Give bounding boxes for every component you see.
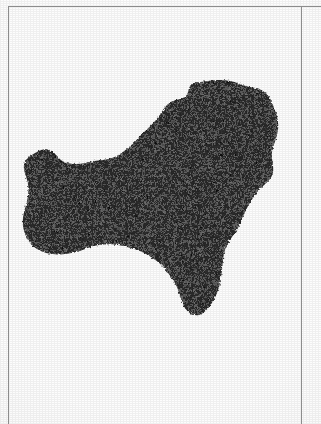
scanned-page	[0, 0, 321, 424]
frame-rule-right	[301, 6, 302, 424]
island-outline	[23, 80, 279, 315]
frame-rule-left	[8, 6, 9, 424]
frame-rule-top	[8, 6, 321, 7]
island-map-figure	[0, 0, 321, 424]
